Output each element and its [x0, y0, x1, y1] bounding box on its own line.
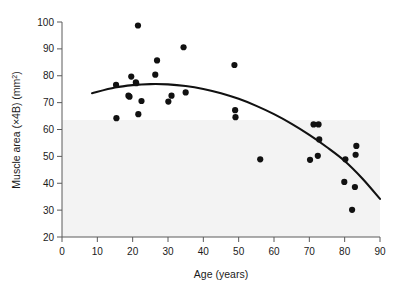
data-point	[154, 57, 160, 63]
data-point	[342, 156, 348, 162]
data-point	[349, 207, 355, 213]
data-point	[232, 107, 238, 113]
y-tick-label: 50	[43, 151, 55, 162]
y-tick-label: 60	[43, 124, 55, 135]
data-point	[257, 156, 263, 162]
data-point	[126, 94, 132, 100]
scatter-plot: 2030405060708090100 0102030405060708090 …	[0, 0, 403, 289]
data-point	[133, 80, 139, 86]
data-point	[180, 44, 186, 50]
data-point	[353, 143, 359, 149]
y-tick-label: 30	[43, 205, 55, 216]
y-tick-label: 90	[43, 43, 55, 54]
data-point	[183, 89, 189, 95]
x-tick-label: 30	[162, 246, 174, 257]
x-tick-label: 20	[127, 246, 139, 257]
data-point	[352, 184, 358, 190]
x-tick-label: 50	[233, 246, 245, 257]
figure-container: 2030405060708090100 0102030405060708090 …	[0, 0, 403, 289]
y-tick-label: 70	[43, 97, 55, 108]
x-tick-label: 40	[198, 246, 210, 257]
data-point	[113, 115, 119, 121]
data-point	[307, 157, 313, 163]
data-point	[316, 136, 322, 142]
x-tick-label: 90	[374, 246, 386, 257]
data-point	[353, 152, 359, 158]
x-tick-label: 70	[304, 246, 316, 257]
x-tick-label: 0	[59, 246, 65, 257]
y-tick-label: 100	[37, 17, 54, 28]
data-point	[315, 121, 321, 127]
x-tick-label: 60	[268, 246, 280, 257]
data-point	[165, 98, 171, 104]
data-point	[315, 153, 321, 159]
data-point	[168, 93, 174, 99]
data-point	[152, 72, 158, 78]
x-axis-ticks: 0102030405060708090	[59, 237, 386, 257]
x-tick-label: 10	[92, 246, 104, 257]
y-tick-label: 80	[43, 70, 55, 81]
data-point	[231, 62, 237, 68]
y-tick-label: 20	[43, 232, 55, 243]
y-axis-title: Muscle area (×4B) (mm2)	[10, 71, 22, 188]
data-point	[135, 111, 141, 117]
data-point	[135, 22, 141, 28]
y-tick-label: 40	[43, 178, 55, 189]
x-axis-title: Age (years)	[194, 268, 248, 280]
y-axis-ticks: 2030405060708090100	[37, 17, 62, 243]
data-point	[341, 179, 347, 185]
plot-background	[62, 120, 380, 237]
data-point	[113, 82, 119, 88]
data-point	[138, 98, 144, 104]
data-point	[128, 73, 134, 79]
x-tick-label: 80	[339, 246, 351, 257]
data-point	[232, 114, 238, 120]
y-axis-title-group: Muscle area (×4B) (mm2)	[10, 71, 22, 188]
